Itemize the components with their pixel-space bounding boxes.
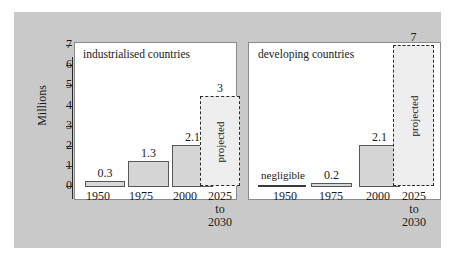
bar-value-industrialised-1975: 1.3 bbox=[128, 147, 169, 159]
y-tick-label-5: 5 bbox=[58, 78, 72, 90]
y-tick-label-4: 4 bbox=[58, 99, 72, 111]
y-tick-label-6: 6 bbox=[58, 58, 72, 70]
panel-title-industrialised: industrialised countries bbox=[83, 48, 190, 60]
x-label-industrialised-1975: 1975 bbox=[119, 190, 163, 203]
chart-plate: Millions 7 6 5 4 3 2 1 0 industrialised … bbox=[14, 12, 441, 248]
bar-value-industrialised-2025-2030: 3 bbox=[200, 82, 240, 94]
y-tick-label-0: 0 bbox=[58, 179, 72, 191]
y-axis-line bbox=[72, 57, 73, 199]
bar-industrialised-1975[interactable] bbox=[128, 161, 169, 187]
y-tick-label-1: 1 bbox=[58, 159, 72, 171]
bar-industrialised-1950[interactable] bbox=[85, 181, 125, 187]
x-label-developing-2025-2030: 2025 to 2030 bbox=[392, 190, 436, 229]
bar-developing-1950[interactable] bbox=[258, 185, 306, 187]
bar-value-industrialised-1950: 0.3 bbox=[85, 167, 125, 179]
x-label-developing-1975: 1975 bbox=[309, 190, 353, 203]
bar-note-developing-projected: projected bbox=[408, 80, 420, 152]
bar-value-developing-1950: negligible bbox=[247, 170, 319, 181]
x-label-industrialised-1950: 1950 bbox=[76, 190, 120, 203]
bar-developing-1975[interactable] bbox=[311, 183, 352, 187]
panel-title-developing: developing countries bbox=[258, 48, 354, 60]
y-tick-label-3: 3 bbox=[58, 119, 72, 131]
bar-value-developing-2025-2030: 7 bbox=[393, 31, 434, 43]
y-tick-label-2: 2 bbox=[58, 139, 72, 151]
bar-value-developing-1975: 0.2 bbox=[311, 169, 352, 181]
x-label-developing-1950: 1950 bbox=[261, 190, 309, 203]
x-label-industrialised-2025-2030: 2025 to 2030 bbox=[198, 190, 242, 229]
y-tick-label-7: 7 bbox=[58, 38, 72, 50]
chart-figure: Millions 7 6 5 4 3 2 1 0 industrialised … bbox=[0, 0, 455, 259]
bar-note-industrialised-projected: projected bbox=[214, 106, 226, 178]
